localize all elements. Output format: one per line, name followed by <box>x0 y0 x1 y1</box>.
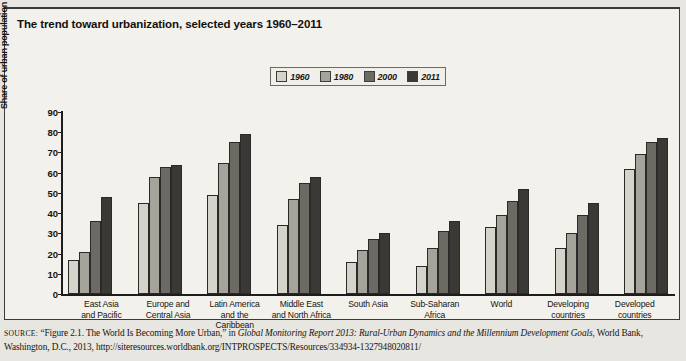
bar-group <box>416 112 460 294</box>
y-tick-label: 60 <box>38 167 58 178</box>
y-tick-label: 80 <box>38 127 58 138</box>
bar <box>101 197 112 294</box>
bar <box>277 225 288 294</box>
bar-group <box>68 112 112 294</box>
x-axis-category-label: Sub-SaharanAfrica <box>401 299 468 325</box>
bar <box>346 262 357 294</box>
bar <box>646 142 657 294</box>
bar-group <box>207 112 251 294</box>
bar <box>357 250 368 294</box>
x-axis-category-label: Europe andCentral Asia <box>135 299 202 325</box>
x-axis-category-label: South Asia <box>335 299 402 325</box>
legend-swatch-icon <box>276 71 287 82</box>
y-tick-label: 0 <box>38 289 58 300</box>
y-axis-label: Share of urban population (% of total po… <box>0 0 9 109</box>
bar <box>379 233 390 294</box>
bar <box>160 167 171 294</box>
bar-group <box>624 112 668 294</box>
bar <box>171 165 182 294</box>
bar-group <box>346 112 390 294</box>
legend-label: 1980 <box>334 72 353 82</box>
bar-group <box>138 112 182 294</box>
legend-item-1960: 1960 <box>276 71 309 82</box>
x-axis-category-label: Developingcountries <box>535 299 602 325</box>
bar <box>635 154 646 294</box>
legend-label: 1960 <box>290 72 309 82</box>
legend-item-1980: 1980 <box>320 71 353 82</box>
bar-group <box>277 112 321 294</box>
y-tick-label: 30 <box>38 228 58 239</box>
legend-item-2011: 2011 <box>407 71 440 82</box>
bar <box>138 203 149 294</box>
x-axis-category-label: Developedcountries <box>601 299 668 325</box>
y-tick-label: 50 <box>38 187 58 198</box>
x-axis-category-label: East Asiaand Pacific <box>68 299 135 325</box>
legend-label: 2000 <box>378 72 397 82</box>
x-axis-category-label: Latin Americaand the Caribbean <box>201 299 268 325</box>
y-tick-label: 70 <box>38 147 58 158</box>
bar <box>657 138 668 294</box>
plot-area: 0102030405060708090 <box>62 112 674 294</box>
bar <box>449 221 460 294</box>
y-tick-label: 20 <box>38 248 58 259</box>
bar <box>416 266 427 294</box>
bar <box>624 169 635 294</box>
bar <box>577 215 588 294</box>
bar <box>79 252 90 294</box>
bar <box>485 227 496 294</box>
bar <box>496 215 507 294</box>
bar <box>218 163 229 294</box>
bar <box>555 248 566 295</box>
bar <box>566 233 577 294</box>
y-tick-label: 10 <box>38 268 58 279</box>
legend-swatch-icon <box>320 71 331 82</box>
chart-legend: 1960198020002011 <box>270 67 446 86</box>
x-axis-category-label: World <box>468 299 535 325</box>
legend-item-2000: 2000 <box>364 71 397 82</box>
y-tick-label: 40 <box>38 208 58 219</box>
x-axis-labels: East Asiaand PacificEurope andCentral As… <box>62 299 674 325</box>
bar <box>229 142 240 294</box>
legend-swatch-icon <box>407 71 418 82</box>
bar <box>149 177 160 294</box>
bar <box>207 195 218 294</box>
y-tick-label: 90 <box>38 107 58 118</box>
bar-group <box>555 112 599 294</box>
x-axis-line <box>61 294 675 296</box>
legend-swatch-icon <box>364 71 375 82</box>
source-note: SOURCE: “Figure 2.1. The World Is Becomi… <box>4 327 680 353</box>
bar <box>68 260 79 294</box>
x-axis-category-label: Middle Eastand North Africa <box>268 299 335 325</box>
bar <box>518 189 529 294</box>
figure-panel: The trend toward urbanization, selected … <box>4 7 680 320</box>
bar <box>438 231 449 294</box>
bar <box>427 248 438 295</box>
bar-groups <box>62 112 674 294</box>
bar <box>310 177 321 294</box>
bar <box>240 134 251 294</box>
bar <box>368 239 379 294</box>
legend-label: 2011 <box>421 72 440 82</box>
bar <box>299 183 310 294</box>
bar <box>588 203 599 294</box>
bar <box>507 201 518 294</box>
bar <box>90 221 101 294</box>
bar <box>288 199 299 294</box>
y-tick-mark <box>58 294 62 295</box>
bar-group <box>485 112 529 294</box>
chart-title: The trend toward urbanization, selected … <box>17 18 322 30</box>
